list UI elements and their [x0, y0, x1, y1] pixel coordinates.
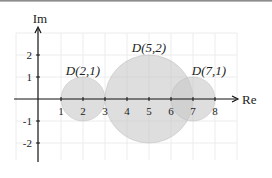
x-axis-label: Re: [242, 92, 257, 107]
gershgorin-diagram: 1 2 3 4 5 6 7 8 2 1 -1 -2 Im Re D(2,1) D…: [0, 0, 272, 178]
x-tick-label: 3: [102, 105, 108, 117]
y-tick-label: -2: [23, 137, 32, 149]
disk-label: D(7,1): [191, 63, 226, 78]
y-tick-label: 2: [27, 49, 33, 61]
disk-label: D(2,1): [65, 63, 100, 78]
disk-label: D(5,2): [131, 40, 166, 55]
x-tick-label: 4: [124, 105, 130, 117]
y-tick-label: -1: [23, 115, 32, 127]
x-tick-label: 7: [190, 105, 196, 117]
x-tick-label: 6: [168, 105, 174, 117]
y-tick-label: 1: [27, 71, 33, 83]
x-tick-label: 1: [58, 105, 64, 117]
y-axis-label: Im: [33, 11, 47, 26]
x-tick-label: 5: [146, 105, 152, 117]
x-tick-label: 2: [80, 105, 86, 117]
x-tick-label: 8: [212, 105, 218, 117]
